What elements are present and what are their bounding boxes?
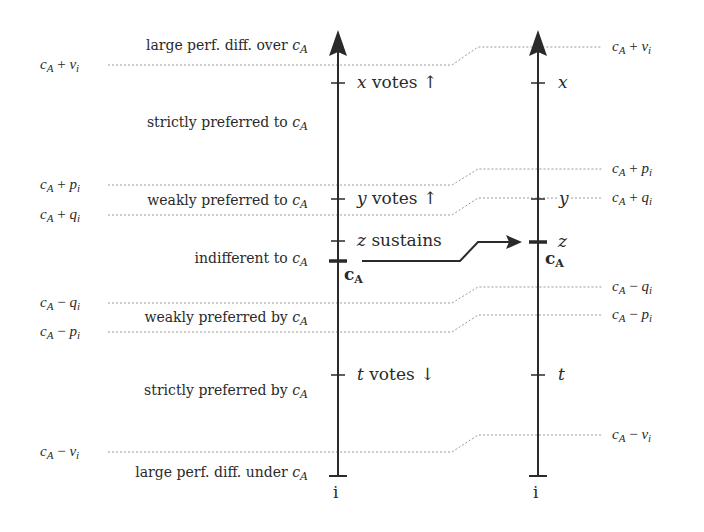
guide-minus-q [108, 287, 602, 303]
left-threshold-plus-q: cA + qi [40, 207, 80, 224]
right-reference-ca: cA [545, 250, 564, 269]
left-tick-z: z sustains [357, 232, 442, 249]
right-tick-z: z [558, 233, 567, 250]
left-threshold-minus-p: cA − pi [40, 324, 80, 341]
left-threshold-minus-v: cA − vi [40, 444, 79, 461]
right-threshold-minus-v: cA − vi [612, 427, 651, 444]
guide-minus-v [108, 435, 602, 452]
region-strictly-preferred-to: strictly preferred to cA [147, 115, 308, 132]
left-tick-t: t votes ↓ [357, 366, 434, 383]
right-threshold-plus-v: cA + vi [612, 39, 651, 56]
guide-plus-p [108, 169, 602, 185]
right-threshold-plus-q: cA + qi [612, 190, 652, 207]
left-axis [329, 30, 347, 476]
right-tick-x: x [558, 74, 568, 91]
right-tick-y: y [558, 190, 570, 207]
right-threshold-minus-q: cA − qi [612, 279, 652, 296]
left-reference-ca: cA [344, 266, 363, 285]
region-indifferent: indifferent to cA [194, 251, 308, 268]
left-axis-label: i [333, 484, 338, 501]
left-threshold-minus-q: cA − qi [40, 295, 80, 312]
region-strictly-preferred-by: strictly preferred by cA [144, 383, 308, 400]
right-threshold-minus-p: cA − pi [612, 307, 652, 324]
region-large-over: large perf. diff. over cA [146, 38, 308, 55]
region-large-under: large perf. diff. under cA [135, 465, 308, 482]
right-threshold-plus-p: cA + pi [612, 161, 652, 178]
region-weakly-preferred-by: weakly preferred by cA [144, 310, 308, 327]
region-weakly-preferred-to: weakly preferred to cA [147, 193, 308, 210]
left-threshold-plus-v: cA + vi [40, 57, 79, 74]
left-tick-y: y votes ↑ [357, 190, 437, 207]
left-tick-x: x votes ↑ [357, 74, 437, 91]
right-tick-t: t [558, 366, 565, 383]
right-axis-label: i [533, 484, 538, 501]
left-threshold-plus-p: cA + pi [40, 177, 80, 194]
